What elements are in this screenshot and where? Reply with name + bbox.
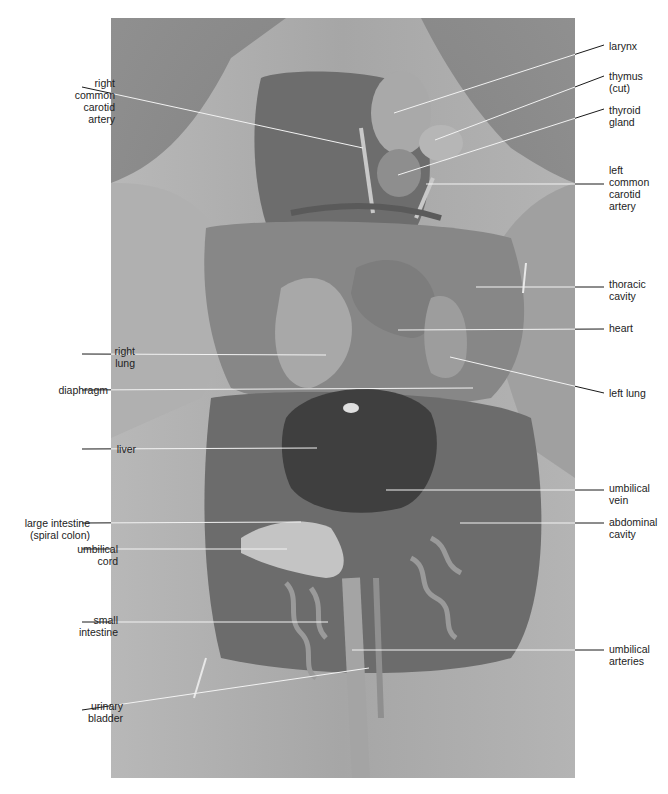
label-small-intestine: small intestine [38,614,118,638]
label-umbilical-cord: umbilical cord [38,543,118,567]
label-larynx: larynx [609,40,637,52]
label-heart: heart [609,322,633,334]
label-thyroid-gland: thyroid gland [609,104,641,128]
label-right-lung: right lung [55,345,135,369]
label-left-common-carotid-artery: left common carotid artery [609,164,649,212]
label-large-intestine: large intestine (spiral colon) [10,517,90,541]
label-abdominal-cavity: abdominal cavity [609,516,657,540]
label-urinary-bladder: urinary bladder [43,700,123,724]
dissection-photo [111,18,575,778]
label-umbilical-vein: umbilical vein [609,482,650,506]
label-left-lung: left lung [609,387,646,399]
label-right-common-carotid-artery: right common carotid artery [35,77,115,125]
label-thoracic-cavity: thoracic cavity [609,278,646,302]
label-diaphragm: diaphragm [28,384,108,396]
label-thymus: thymus (cut) [609,70,643,94]
label-umbilical-arteries: umbilical arteries [609,643,650,667]
label-liver: liver [56,443,136,455]
liver-shape [282,389,437,513]
